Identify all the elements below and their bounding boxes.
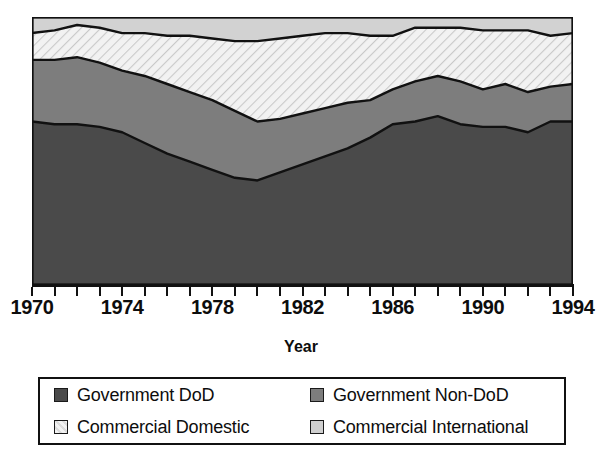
legend-swatch-icon bbox=[310, 388, 324, 402]
legend-item-label: Commercial Domestic bbox=[77, 417, 249, 438]
x-tick-1983 bbox=[324, 287, 326, 296]
chart-legend: Government DoDGovernment Non-DoDCommerci… bbox=[38, 377, 566, 445]
x-tick-label-1970: 1970 bbox=[11, 296, 54, 319]
x-tick-1993 bbox=[549, 287, 551, 296]
x-tick-1976 bbox=[166, 287, 168, 296]
x-tick-1994 bbox=[572, 287, 574, 296]
x-axis-title: Year bbox=[0, 338, 602, 356]
legend-item: Government DoD bbox=[40, 385, 302, 406]
x-tick-label-1974: 1974 bbox=[101, 296, 144, 319]
x-axis-ticks bbox=[32, 287, 574, 296]
x-axis-tick-labels: 1970197419781982198619901994 bbox=[0, 296, 602, 322]
x-tick-1988 bbox=[437, 287, 439, 296]
x-tick-1984 bbox=[347, 287, 349, 296]
legend-item-label: Commercial International bbox=[333, 417, 528, 438]
area-bands bbox=[32, 17, 573, 285]
x-tick-1982 bbox=[302, 287, 304, 296]
x-tick-1975 bbox=[144, 287, 146, 296]
x-tick-1986 bbox=[392, 287, 394, 296]
x-tick-1980 bbox=[256, 287, 258, 296]
legend-item: Commercial International bbox=[302, 417, 564, 438]
plot-area bbox=[32, 17, 573, 285]
x-tick-1985 bbox=[369, 287, 371, 296]
legend-item-label: Government DoD bbox=[77, 385, 214, 406]
area-chart-svg bbox=[32, 17, 573, 285]
x-tick-1987 bbox=[414, 287, 416, 296]
x-tick-label-1994: 1994 bbox=[552, 296, 595, 319]
x-tick-1974 bbox=[121, 287, 123, 296]
x-tick-1977 bbox=[189, 287, 191, 296]
legend-swatch-icon bbox=[310, 420, 324, 434]
x-tick-1973 bbox=[99, 287, 101, 296]
x-tick-label-1990: 1990 bbox=[461, 296, 504, 319]
legend-item: Commercial Domestic bbox=[40, 417, 302, 438]
legend-item: Government Non-DoD bbox=[302, 385, 564, 406]
legend-swatch-icon bbox=[54, 388, 68, 402]
x-tick-1989 bbox=[459, 287, 461, 296]
x-tick-1970 bbox=[31, 287, 33, 296]
x-tick-1979 bbox=[234, 287, 236, 296]
x-tick-1972 bbox=[76, 287, 78, 296]
x-tick-1992 bbox=[527, 287, 529, 296]
x-tick-1971 bbox=[54, 287, 56, 296]
x-tick-label-1986: 1986 bbox=[371, 296, 414, 319]
x-tick-label-1982: 1982 bbox=[281, 296, 324, 319]
x-tick-1990 bbox=[482, 287, 484, 296]
x-tick-1991 bbox=[504, 287, 506, 296]
stacked-area-chart: 1970197419781982198619901994 Year Govern… bbox=[0, 0, 602, 458]
legend-swatch-icon bbox=[54, 420, 68, 434]
x-tick-1981 bbox=[279, 287, 281, 296]
x-tick-1978 bbox=[211, 287, 213, 296]
legend-item-label: Government Non-DoD bbox=[333, 385, 508, 406]
x-tick-label-1978: 1978 bbox=[191, 296, 234, 319]
